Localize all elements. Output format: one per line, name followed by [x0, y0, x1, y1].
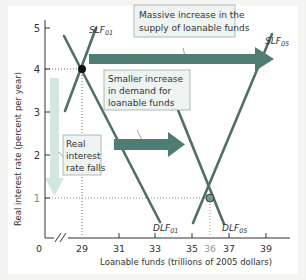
y-tick-1: 1	[34, 193, 40, 204]
x-axis-title: Loanable funds (trillions of 2005 dollar…	[100, 257, 272, 267]
box-rate-falls: Real interest rate falls	[63, 135, 106, 175]
x-tick-31: 31	[113, 243, 125, 254]
loanable-funds-chart: Massive increase in the supply of loanab…	[0, 0, 306, 280]
box-supply-line-2: supply of loanable funds	[139, 23, 250, 33]
y-tick-4: 4	[34, 64, 40, 75]
x-tick-35: 35	[186, 243, 198, 254]
x-tick-39: 39	[260, 243, 272, 254]
x-tick-0: 0	[36, 243, 42, 254]
y-tick-5: 5	[34, 23, 40, 34]
x-tick-36: 36	[204, 243, 216, 254]
equilibrium-point-2005	[206, 194, 214, 202]
box-demand-line-2: in demand for	[108, 86, 172, 96]
y-tick-3: 3	[34, 107, 40, 118]
box-demand-line-1: Smaller increase	[108, 74, 183, 84]
box-rate-line-3: rate falls	[66, 163, 106, 173]
box-rate-line-2: interest	[66, 151, 101, 161]
box-rate-line-1: Real	[66, 139, 85, 149]
box-supply-line-1: Massive increase in the	[139, 10, 245, 20]
x-tick-37: 37	[223, 243, 235, 254]
x-tick-29: 29	[76, 243, 88, 254]
box-demand-increase: Smaller increase in demand for loanable …	[104, 70, 190, 110]
y-axis-title: Real interest rate (percent per year)	[13, 72, 23, 226]
y-tick-2: 2	[34, 150, 40, 161]
box-demand-line-3: loanable funds	[108, 98, 175, 108]
box-supply-increase: Massive increase in the supply of loanab…	[134, 5, 250, 37]
x-tick-33: 33	[149, 243, 161, 254]
equilibrium-point-2001	[78, 65, 86, 73]
axis-break-icon	[54, 233, 68, 242]
